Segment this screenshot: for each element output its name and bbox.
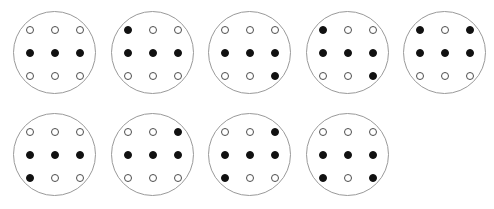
filled-dot — [221, 49, 229, 57]
filled-dot — [344, 49, 352, 57]
filled-dot — [319, 151, 327, 159]
dice-face-grid-diagram — [0, 0, 494, 209]
circle-6 — [13, 113, 96, 196]
filled-dot — [369, 72, 377, 80]
open-dot — [51, 26, 59, 34]
filled-dot — [26, 151, 34, 159]
filled-dot — [124, 49, 132, 57]
filled-dot — [319, 49, 327, 57]
open-dot — [221, 26, 229, 34]
filled-dot — [271, 49, 279, 57]
filled-dot — [369, 174, 377, 182]
circle-5 — [403, 11, 486, 94]
filled-dot — [246, 151, 254, 159]
open-dot — [76, 128, 84, 136]
filled-dot — [246, 49, 254, 57]
filled-dot — [271, 128, 279, 136]
open-dot — [344, 174, 352, 182]
open-dot — [369, 26, 377, 34]
filled-dot — [174, 128, 182, 136]
filled-dot — [369, 151, 377, 159]
open-dot — [221, 128, 229, 136]
filled-dot — [466, 49, 474, 57]
open-dot — [51, 128, 59, 136]
open-dot — [344, 128, 352, 136]
open-dot — [124, 72, 132, 80]
filled-dot — [271, 151, 279, 159]
filled-dot — [416, 26, 424, 34]
filled-dot — [221, 174, 229, 182]
open-dot — [76, 174, 84, 182]
filled-dot — [26, 49, 34, 57]
open-dot — [149, 174, 157, 182]
open-dot — [174, 26, 182, 34]
circle-1 — [13, 11, 96, 94]
open-dot — [51, 174, 59, 182]
filled-dot — [124, 151, 132, 159]
open-dot — [221, 72, 229, 80]
open-dot — [416, 72, 424, 80]
filled-dot — [221, 151, 229, 159]
filled-dot — [76, 49, 84, 57]
filled-dot — [441, 49, 449, 57]
open-dot — [76, 26, 84, 34]
open-dot — [369, 128, 377, 136]
open-dot — [344, 72, 352, 80]
open-dot — [319, 128, 327, 136]
open-dot — [441, 72, 449, 80]
open-dot — [124, 174, 132, 182]
open-dot — [26, 128, 34, 136]
filled-dot — [51, 151, 59, 159]
open-dot — [441, 26, 449, 34]
open-dot — [174, 174, 182, 182]
open-dot — [174, 72, 182, 80]
open-dot — [149, 26, 157, 34]
filled-dot — [369, 49, 377, 57]
open-dot — [246, 72, 254, 80]
open-dot — [271, 174, 279, 182]
filled-dot — [149, 49, 157, 57]
filled-dot — [174, 151, 182, 159]
open-dot — [344, 26, 352, 34]
open-dot — [149, 128, 157, 136]
filled-dot — [319, 26, 327, 34]
filled-dot — [26, 174, 34, 182]
circle-3 — [208, 11, 291, 94]
open-dot — [26, 72, 34, 80]
open-dot — [246, 174, 254, 182]
filled-dot — [149, 151, 157, 159]
open-dot — [26, 26, 34, 34]
filled-dot — [319, 174, 327, 182]
open-dot — [246, 128, 254, 136]
circle-4 — [306, 11, 389, 94]
circle-8 — [208, 113, 291, 196]
open-dot — [149, 72, 157, 80]
filled-dot — [76, 151, 84, 159]
open-dot — [51, 72, 59, 80]
open-dot — [124, 128, 132, 136]
filled-dot — [416, 49, 424, 57]
open-dot — [76, 72, 84, 80]
open-dot — [246, 26, 254, 34]
filled-dot — [344, 151, 352, 159]
filled-dot — [174, 49, 182, 57]
open-dot — [466, 72, 474, 80]
open-dot — [271, 26, 279, 34]
circle-7 — [111, 113, 194, 196]
circle-9 — [306, 113, 389, 196]
circle-2 — [111, 11, 194, 94]
filled-dot — [124, 26, 132, 34]
filled-dot — [466, 26, 474, 34]
filled-dot — [51, 49, 59, 57]
filled-dot — [271, 72, 279, 80]
open-dot — [319, 72, 327, 80]
